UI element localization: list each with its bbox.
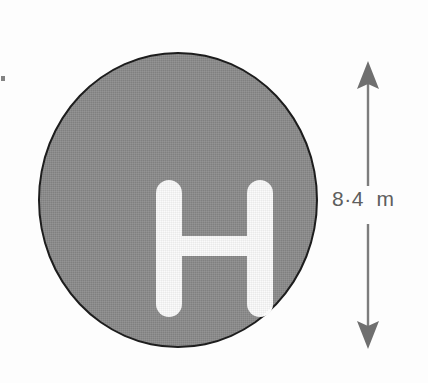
- letter-h-icon: [155, 178, 275, 318]
- letter-h-marking: [155, 178, 275, 318]
- dimension-label: 8·4 m: [332, 187, 412, 211]
- helipad-diagram: 8·4 m: [0, 0, 428, 383]
- scan-edge-mark: [1, 76, 5, 81]
- helipad-circle: [38, 52, 318, 348]
